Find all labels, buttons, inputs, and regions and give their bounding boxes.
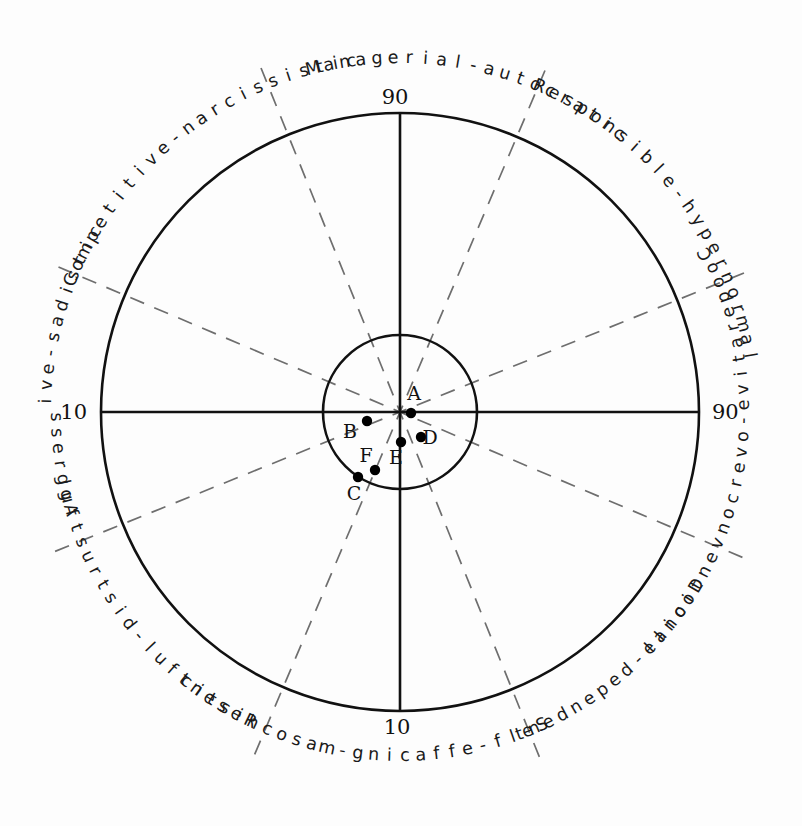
circumplex-diagram: 90101090 Managerial-autocraticCompetitiv… bbox=[0, 0, 802, 826]
svg-text:v: v bbox=[706, 534, 729, 551]
svg-text:-: - bbox=[477, 734, 488, 755]
svg-text:e: e bbox=[388, 47, 399, 67]
axis-label-top: 90 bbox=[382, 85, 409, 109]
svg-text:s: s bbox=[47, 412, 67, 422]
svg-text:c: c bbox=[400, 745, 410, 765]
svg-text:f: f bbox=[492, 730, 504, 751]
svg-text:e: e bbox=[658, 170, 680, 191]
svg-text:r: r bbox=[51, 459, 72, 470]
axis-lines bbox=[101, 113, 699, 711]
svg-text:t: t bbox=[93, 576, 114, 592]
data-point-E[interactable]: E bbox=[389, 437, 406, 468]
svg-text:l: l bbox=[740, 351, 761, 359]
svg-text:-: - bbox=[469, 54, 480, 75]
svg-text:a: a bbox=[415, 744, 427, 765]
svg-text:i: i bbox=[731, 370, 751, 377]
svg-text:f: f bbox=[164, 659, 182, 679]
svg-text:n: n bbox=[711, 519, 734, 536]
point-label-F: F bbox=[359, 444, 372, 466]
svg-text:-: - bbox=[338, 740, 348, 761]
svg-text:b: b bbox=[636, 146, 658, 168]
svg-text:a: a bbox=[191, 107, 211, 130]
data-point-D[interactable]: D bbox=[416, 426, 438, 448]
svg-text:r: r bbox=[725, 477, 746, 489]
svg-text:c: c bbox=[721, 491, 743, 506]
svg-text:a: a bbox=[435, 49, 448, 70]
svg-text:v: v bbox=[36, 379, 57, 391]
svg-text:i: i bbox=[283, 65, 294, 86]
point-marker-A[interactable] bbox=[406, 408, 416, 418]
svg-text:m: m bbox=[317, 736, 338, 759]
svg-text:e: e bbox=[733, 399, 753, 410]
svg-text:-: - bbox=[40, 348, 61, 358]
svg-text:r: r bbox=[85, 563, 106, 579]
svg-text:s: s bbox=[290, 728, 305, 750]
octant-label-competitive-narcissistic: Competitive-narcissistic bbox=[59, 50, 358, 289]
svg-text:g: g bbox=[351, 742, 365, 763]
point-marker-B[interactable] bbox=[362, 416, 372, 426]
svg-text:-: - bbox=[130, 626, 149, 644]
svg-text:o: o bbox=[717, 505, 739, 521]
point-label-A: A bbox=[406, 382, 421, 404]
svg-text:s: s bbox=[250, 76, 267, 98]
point-label-D: D bbox=[422, 426, 437, 448]
svg-text:f: f bbox=[432, 743, 441, 764]
svg-text:e: e bbox=[728, 460, 750, 474]
svg-text:e: e bbox=[48, 442, 69, 455]
svg-text:v: v bbox=[730, 446, 751, 459]
svg-text:u: u bbox=[150, 647, 172, 669]
svg-text:r: r bbox=[206, 98, 223, 119]
svg-text:i: i bbox=[237, 83, 250, 103]
svg-text:t: t bbox=[514, 68, 527, 89]
svg-text:o: o bbox=[732, 430, 753, 442]
data-point-F[interactable]: F bbox=[359, 444, 380, 475]
svg-text:i: i bbox=[35, 398, 55, 404]
svg-text:e: e bbox=[152, 137, 174, 159]
svg-text:l: l bbox=[141, 638, 159, 655]
svg-text:t: t bbox=[66, 521, 87, 534]
svg-text:-: - bbox=[670, 185, 690, 202]
svg-text:d: d bbox=[50, 297, 72, 314]
svg-text:i: i bbox=[627, 137, 644, 155]
svg-text:s: s bbox=[72, 534, 94, 550]
svg-text:d: d bbox=[118, 613, 141, 634]
svg-text:s: s bbox=[101, 588, 123, 607]
svg-text:r: r bbox=[405, 47, 414, 67]
point-marker-F[interactable] bbox=[370, 465, 380, 475]
point-label-B: B bbox=[343, 420, 357, 442]
svg-text:v: v bbox=[732, 383, 753, 395]
svg-text:s: s bbox=[47, 428, 68, 439]
svg-text:a: a bbox=[482, 57, 498, 79]
octant-label-docile-dependent: Docile-dependent bbox=[512, 574, 708, 744]
svg-text:-: - bbox=[733, 417, 753, 424]
svg-text:f: f bbox=[447, 741, 457, 762]
svg-text:l: l bbox=[650, 160, 668, 177]
svg-text:n: n bbox=[367, 744, 380, 765]
svg-text:a: a bbox=[737, 332, 759, 347]
svg-text:-: - bbox=[166, 128, 184, 148]
svg-text:e: e bbox=[37, 362, 58, 375]
data-point-C[interactable]: C bbox=[347, 472, 363, 504]
point-label-E: E bbox=[389, 446, 403, 468]
svg-text:i: i bbox=[131, 162, 149, 179]
svg-text:t: t bbox=[119, 174, 139, 192]
svg-text:o: o bbox=[274, 723, 291, 746]
point-label-C: C bbox=[347, 482, 362, 504]
octant-label-resentful-distrustful: Resentful-distrustful bbox=[54, 478, 261, 733]
svg-text:i: i bbox=[422, 48, 428, 68]
axis-label-bottom: 10 bbox=[384, 715, 411, 739]
svg-text:i: i bbox=[387, 745, 393, 765]
svg-text:s: s bbox=[265, 70, 281, 92]
svg-text:i: i bbox=[109, 187, 128, 203]
svg-text:u: u bbox=[77, 547, 100, 566]
svg-text:g: g bbox=[371, 47, 384, 68]
point-marker-C[interactable] bbox=[353, 472, 363, 482]
svg-text:u: u bbox=[497, 62, 514, 84]
svg-text:c: c bbox=[259, 717, 276, 739]
svg-text:m: m bbox=[732, 313, 756, 335]
svg-text:i: i bbox=[111, 603, 130, 619]
svg-text:t: t bbox=[99, 200, 119, 217]
diagram-canvas: 90101090 Managerial-autocraticCompetitiv… bbox=[0, 0, 802, 826]
svg-text:e: e bbox=[699, 548, 722, 566]
svg-text:c: c bbox=[220, 90, 238, 112]
